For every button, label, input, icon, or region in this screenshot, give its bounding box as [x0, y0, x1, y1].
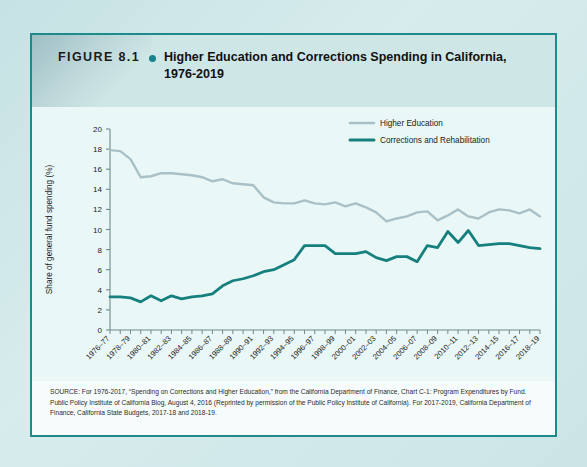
series-line-2	[110, 231, 540, 302]
y-tick-label: 14	[93, 185, 102, 194]
source-note: SOURCE: For 1976-2017, “Spending on Corr…	[32, 381, 555, 435]
y-tick-label: 16	[93, 165, 102, 174]
bullet-dot-icon	[149, 55, 156, 62]
figure-number-label: FIGURE 8.1	[58, 49, 140, 64]
y-tick-label: 4	[98, 286, 103, 295]
legend-label-2: Corrections and Rehabilitation	[380, 136, 490, 145]
figure-card: FIGURE 8.1 Higher Education and Correcti…	[30, 33, 557, 437]
y-tick-label: 18	[93, 145, 102, 154]
figure-title-row: FIGURE 8.1 Higher Education and Correcti…	[58, 49, 531, 83]
y-tick-label: 6	[98, 266, 103, 275]
chart-plot-area: 02468101214161820Share of general fund s…	[32, 107, 555, 385]
figure-title: Higher Education and Corrections Spendin…	[164, 49, 524, 83]
legend-label-1: Higher Education	[380, 119, 443, 128]
y-tick-label: 8	[98, 246, 103, 255]
y-tick-label: 10	[93, 226, 102, 235]
source-note-text: SOURCE: For 1976-2017, “Spending on Corr…	[50, 387, 537, 419]
y-axis-title: Share of general fund spending (%)	[45, 165, 54, 295]
line-chart: 02468101214161820Share of general fund s…	[32, 107, 555, 385]
y-tick-label: 12	[93, 205, 102, 214]
y-tick-label: 0	[98, 326, 103, 335]
y-tick-label: 2	[98, 306, 103, 315]
series-line-1	[110, 150, 540, 221]
page-root: FIGURE 8.1 Higher Education and Correcti…	[0, 0, 587, 467]
figure-header: FIGURE 8.1 Higher Education and Correcti…	[32, 35, 555, 107]
y-tick-label: 20	[93, 125, 102, 134]
